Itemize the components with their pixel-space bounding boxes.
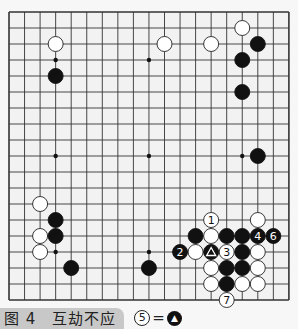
move-number-label: 2 bbox=[177, 246, 184, 259]
white-stone bbox=[235, 277, 250, 292]
white-stone bbox=[250, 277, 265, 292]
move-number-circle: 5 bbox=[134, 310, 150, 326]
black-stone bbox=[219, 261, 234, 276]
star-point-icon bbox=[53, 250, 57, 254]
black-stone bbox=[235, 85, 250, 100]
star-point-icon bbox=[147, 58, 151, 62]
black-stone bbox=[250, 149, 265, 164]
white-stone bbox=[250, 213, 265, 228]
star-point-icon bbox=[53, 58, 57, 62]
move-number-label: 1 bbox=[208, 214, 215, 227]
black-stone bbox=[48, 213, 63, 228]
move-number-label: 3 bbox=[223, 246, 230, 259]
move-number-label: 4 bbox=[254, 230, 261, 243]
go-board: 146237 bbox=[0, 0, 298, 310]
black-stone bbox=[219, 229, 234, 244]
white-stone bbox=[250, 245, 265, 260]
white-stone bbox=[250, 261, 265, 276]
black-stone bbox=[64, 261, 79, 276]
black-stone bbox=[188, 229, 203, 244]
black-stone bbox=[141, 261, 156, 276]
black-stone bbox=[235, 53, 250, 68]
white-stone bbox=[48, 37, 63, 52]
white-stone bbox=[33, 245, 48, 260]
white-stone bbox=[188, 245, 203, 260]
figure-label: 图 4 互劫不应 bbox=[0, 308, 124, 329]
black-stone bbox=[219, 277, 234, 292]
white-stone bbox=[235, 21, 250, 36]
triangle-marked-black-stone-icon: ▲ bbox=[167, 311, 182, 326]
white-stone bbox=[204, 277, 219, 292]
move-number-label: 7 bbox=[223, 294, 230, 307]
move-note: 5 = ▲ bbox=[134, 308, 182, 328]
star-point-icon bbox=[147, 250, 151, 254]
black-stone bbox=[235, 229, 250, 244]
star-point-icon bbox=[240, 154, 244, 158]
black-stone bbox=[250, 37, 265, 52]
equals-sign: = bbox=[152, 308, 165, 328]
star-point-icon bbox=[147, 154, 151, 158]
white-stone bbox=[204, 229, 219, 244]
star-point-icon bbox=[53, 154, 57, 158]
black-stone bbox=[235, 245, 250, 260]
white-stone bbox=[204, 261, 219, 276]
black-stone bbox=[48, 229, 63, 244]
figure-caption: 图 4 互劫不应 5 = ▲ bbox=[0, 308, 182, 328]
black-stone bbox=[235, 261, 250, 276]
black-stone bbox=[48, 69, 63, 84]
white-stone bbox=[33, 229, 48, 244]
white-stone bbox=[33, 197, 48, 212]
white-stone bbox=[204, 37, 219, 52]
move-number-label: 6 bbox=[270, 230, 277, 243]
white-stone bbox=[157, 37, 172, 52]
